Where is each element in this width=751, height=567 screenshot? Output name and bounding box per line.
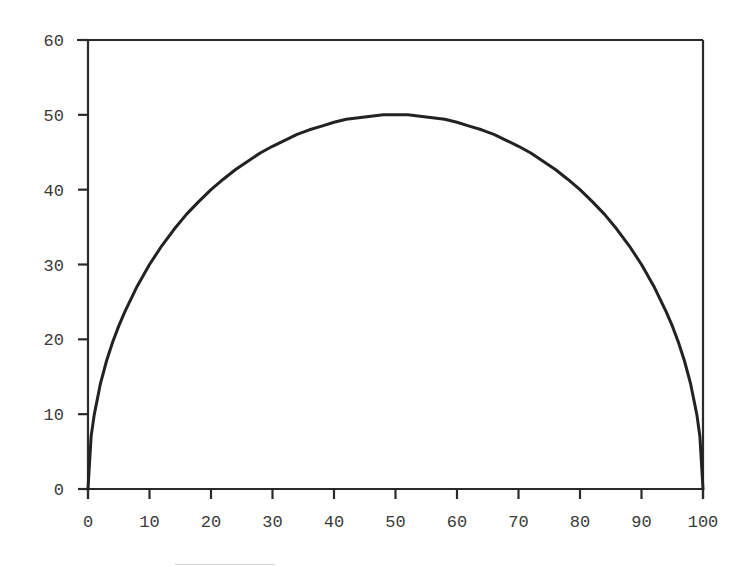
plot-frame xyxy=(77,40,703,499)
x-axis-ticks: 0102030405060708090100 xyxy=(83,489,718,532)
y-tick-label: 30 xyxy=(44,257,64,276)
x-tick-label: 0 xyxy=(83,513,93,532)
x-tick-label: 20 xyxy=(201,513,221,532)
data-curve xyxy=(88,115,703,489)
x-tick-label: 10 xyxy=(139,513,159,532)
y-tick-label: 0 xyxy=(54,481,64,500)
semicircle-chart: 0102030405060 0102030405060708090100 xyxy=(0,0,751,567)
y-tick-label: 50 xyxy=(44,107,64,126)
x-tick-label: 90 xyxy=(631,513,651,532)
x-tick-label: 50 xyxy=(385,513,405,532)
footer-divider xyxy=(175,564,275,565)
y-tick-label: 60 xyxy=(44,32,64,51)
y-tick-label: 20 xyxy=(44,331,64,350)
y-tick-label: 10 xyxy=(44,406,64,425)
x-tick-label: 100 xyxy=(688,513,719,532)
y-axis-ticks: 0102030405060 xyxy=(44,32,88,500)
x-tick-label: 60 xyxy=(447,513,467,532)
x-tick-label: 80 xyxy=(570,513,590,532)
x-tick-label: 30 xyxy=(262,513,282,532)
y-tick-label: 40 xyxy=(44,182,64,201)
x-tick-label: 40 xyxy=(324,513,344,532)
x-tick-label: 70 xyxy=(508,513,528,532)
